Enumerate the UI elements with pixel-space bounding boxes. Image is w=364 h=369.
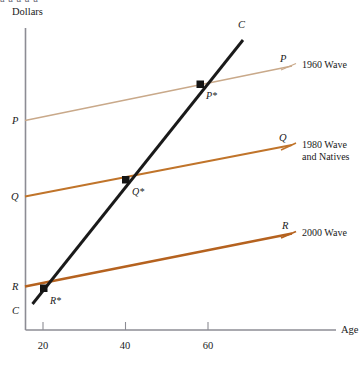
series-line-2000-wave (25, 234, 292, 287)
marker-p-star (197, 81, 205, 89)
chart-figure: a a a a a Dollars Age 20 40 60 P (0, 0, 364, 369)
legend-entry-1980-line1: 1980 Wave (302, 139, 350, 151)
point-label-r-star: R* (50, 296, 61, 306)
legend-entry-2000-line1: 2000 Wave (302, 227, 347, 239)
x-tick-label-40: 40 (115, 341, 135, 352)
x-axis-title: Age (341, 325, 359, 336)
marker-q-star (122, 176, 130, 184)
marker-r-star (40, 285, 48, 293)
series-line-1960-wave (25, 66, 292, 121)
point-label-p-star: P* (206, 91, 217, 101)
y-intercept-label-c: C (12, 306, 19, 317)
curve-label-q-right: Q (279, 133, 287, 144)
y-intercept-label-q: Q (11, 192, 19, 203)
legend-entry-2000: 2000 Wave (302, 227, 347, 239)
series-line-1980-wave (25, 145, 292, 197)
legend-entry-1980-line2: and Natives (302, 151, 350, 163)
legend-entry-1980: 1980 Wave and Natives (302, 139, 350, 163)
legend-entry-1960: 1960 Wave (302, 59, 347, 71)
y-axis-title: Dollars (12, 7, 43, 18)
curve-label-p-right: P (280, 54, 286, 65)
y-intercept-label-p: P (12, 116, 18, 127)
y-intercept-label-r: R (12, 282, 18, 293)
chart-plot-area (0, 0, 364, 369)
cost-curve-label: C (238, 20, 245, 31)
point-label-q-star: Q* (132, 187, 144, 197)
curve-label-r-right: R (282, 221, 288, 232)
x-tick-label-60: 60 (198, 341, 218, 352)
x-tick-label-20: 20 (33, 341, 53, 352)
legend-entry-1960-line1: 1960 Wave (302, 59, 347, 71)
